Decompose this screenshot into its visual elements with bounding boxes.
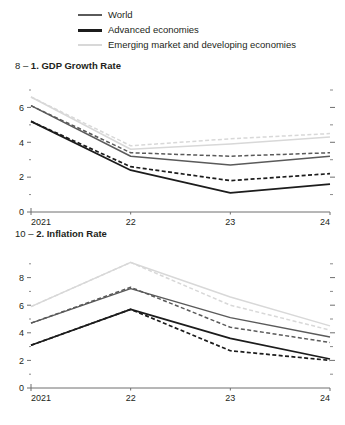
legend-swatch-emerging-market-icon <box>78 44 102 46</box>
y-tick-label: 0 <box>19 207 24 217</box>
x-tick-label: 23 <box>225 393 235 403</box>
series-line <box>31 97 330 149</box>
legend-item-advanced-economies: Advanced economies <box>0 23 345 37</box>
x-tick-label: 22 <box>126 217 136 227</box>
series-line <box>31 106 330 157</box>
series-line <box>31 262 330 330</box>
legend-label-emerging-market: Emerging market and developing economies <box>108 40 296 50</box>
legend-item-world: World <box>0 8 345 22</box>
chart-plot-inflation-rate: 202122232402468 <box>0 228 345 418</box>
legend-swatch-advanced-economies-icon <box>78 29 102 32</box>
series-line <box>31 309 330 359</box>
x-tick-label: 2021 <box>31 393 51 403</box>
panel-gdp-growth-rate: 8 – 1. GDP Growth Rate 20212223240246 <box>0 60 345 230</box>
x-tick-label: 24 <box>320 217 330 227</box>
series-line <box>31 287 330 342</box>
legend-item-emerging-market: Emerging market and developing economies <box>0 38 345 52</box>
y-tick-label: 4 <box>19 328 24 338</box>
chart-plot-gdp-growth-rate: 20212223240246 <box>0 60 345 230</box>
y-tick-label: 0 <box>19 383 24 393</box>
y-tick-label: 4 <box>19 138 24 148</box>
chart-legend: World Advanced economies Emerging market… <box>0 8 345 54</box>
x-tick-label: 2021 <box>31 217 51 227</box>
y-tick-label: 2 <box>19 172 24 182</box>
y-tick-label: 2 <box>19 356 24 366</box>
x-tick-label: 23 <box>225 217 235 227</box>
series-line <box>31 121 330 192</box>
x-tick-label: 22 <box>126 393 136 403</box>
panel-inflation-rate: 10 – 2. Inflation Rate 202122232402468 <box>0 228 345 418</box>
series-line <box>31 97 330 146</box>
series-line <box>31 262 330 325</box>
y-tick-label: 8 <box>19 273 24 283</box>
series-line <box>31 121 330 180</box>
legend-swatch-world-icon <box>78 14 102 16</box>
legend-label-world: World <box>108 10 133 20</box>
y-tick-label: 6 <box>19 103 24 113</box>
legend-label-advanced-economies: Advanced economies <box>108 25 199 35</box>
x-tick-label: 24 <box>320 393 330 403</box>
y-tick-label: 6 <box>19 301 24 311</box>
series-line <box>31 309 330 360</box>
